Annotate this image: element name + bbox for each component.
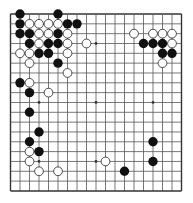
white-stone bbox=[35, 29, 44, 38]
black-stone bbox=[15, 9, 24, 18]
black-stone bbox=[34, 127, 43, 136]
star-point-icon bbox=[95, 160, 98, 163]
black-stone bbox=[25, 39, 34, 48]
white-stone bbox=[25, 147, 34, 156]
white-stone bbox=[25, 49, 34, 58]
white-stone bbox=[16, 49, 25, 58]
white-stone bbox=[168, 29, 177, 38]
black-stone bbox=[53, 9, 62, 18]
black-stone bbox=[148, 39, 157, 48]
white-stone bbox=[35, 19, 44, 28]
black-stone bbox=[25, 108, 34, 117]
white-stone bbox=[25, 19, 34, 28]
black-stone bbox=[53, 29, 62, 38]
white-stone bbox=[25, 59, 34, 68]
white-stone bbox=[25, 157, 34, 166]
white-stone bbox=[35, 167, 44, 176]
white-stone bbox=[54, 167, 63, 176]
white-stone bbox=[158, 59, 167, 68]
black-stone bbox=[15, 29, 24, 38]
white-stone bbox=[63, 69, 72, 78]
star-point-icon bbox=[152, 101, 155, 104]
star-point-icon bbox=[38, 101, 41, 104]
white-stone bbox=[54, 19, 63, 28]
black-stone bbox=[15, 19, 24, 28]
white-stone bbox=[63, 29, 72, 38]
white-stone bbox=[63, 49, 72, 58]
go-board-grid[interactable] bbox=[0, 0, 193, 203]
white-stone bbox=[44, 88, 53, 97]
black-stone bbox=[44, 49, 53, 58]
go-board[interactable] bbox=[0, 0, 193, 203]
star-point-icon bbox=[95, 101, 98, 104]
white-stone bbox=[25, 78, 34, 87]
black-stone bbox=[158, 39, 167, 48]
white-stone bbox=[82, 39, 91, 48]
white-stone bbox=[44, 19, 53, 28]
black-stone bbox=[53, 39, 62, 48]
white-stone bbox=[44, 29, 53, 38]
black-stone bbox=[120, 167, 129, 176]
black-stone bbox=[44, 39, 53, 48]
black-stone bbox=[148, 157, 157, 166]
black-stone bbox=[148, 137, 157, 146]
black-stone bbox=[15, 78, 24, 87]
white-stone bbox=[101, 157, 110, 166]
black-stone bbox=[167, 49, 176, 58]
white-stone bbox=[149, 29, 158, 38]
white-stone bbox=[63, 39, 72, 48]
white-stone bbox=[35, 39, 44, 48]
black-stone bbox=[53, 58, 62, 67]
black-stone bbox=[158, 49, 167, 58]
black-stone bbox=[139, 39, 148, 48]
white-stone bbox=[130, 29, 139, 38]
black-stone bbox=[25, 29, 34, 38]
black-stone bbox=[25, 137, 34, 146]
star-point-icon bbox=[38, 160, 41, 163]
black-stone bbox=[72, 19, 81, 28]
black-stone bbox=[63, 19, 72, 28]
black-stone bbox=[34, 147, 43, 156]
white-stone bbox=[168, 39, 177, 48]
white-stone bbox=[158, 29, 167, 38]
black-stone bbox=[34, 49, 43, 58]
star-point-icon bbox=[95, 42, 98, 45]
black-stone bbox=[25, 88, 34, 97]
